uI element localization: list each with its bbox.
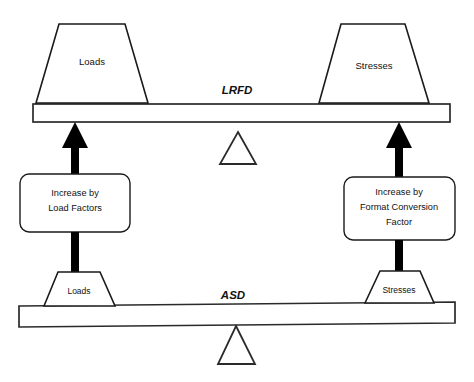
right-conversion-line2: Format Conversion: [360, 202, 438, 212]
lrfd-beam: [33, 104, 450, 122]
lrfd-asd-balance-diagram: Loads Stresses LRFD Increase by Load Fac…: [0, 0, 474, 382]
asd-stresses-block-label: Stresses: [382, 285, 415, 295]
lrfd-method-label: LRFD: [222, 84, 253, 96]
left-lower-arrow-shaft: [71, 232, 79, 278]
lrfd-stresses-block-label: Stresses: [356, 60, 393, 71]
right-conversion-line1: Increase by: [375, 187, 423, 197]
right-conversion-line3: Factor: [386, 217, 412, 227]
right-upper-arrow-icon: [386, 122, 412, 177]
left-upper-arrow-icon: [62, 122, 88, 174]
lrfd-loads-block-label: Loads: [79, 56, 105, 67]
asd-fulcrum-triangle: [218, 326, 255, 364]
left-conversion-line2: Load Factors: [48, 203, 102, 213]
asd-loads-block-label: Loads: [67, 286, 90, 296]
left-conversion-line1: Increase by: [51, 188, 99, 198]
asd-method-label: ASD: [220, 289, 245, 301]
lrfd-fulcrum-triangle: [220, 132, 256, 164]
balance-diagram-canvas: Loads Stresses LRFD Increase by Load Fac…: [0, 0, 474, 382]
